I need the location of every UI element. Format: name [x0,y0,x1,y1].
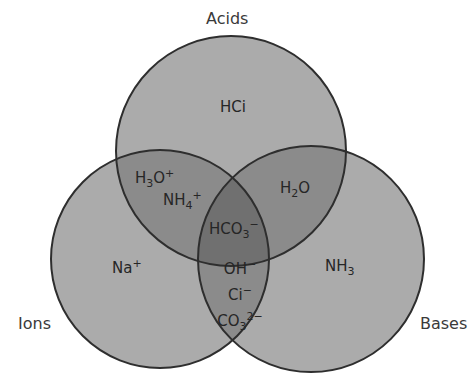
set-label-ions: Ions [18,314,51,333]
region-acids-bases-h2o: H2O [280,181,310,199]
region-ions-bases: OH− Ci− CO32− [208,254,272,338]
oh-ion: OH− [208,254,272,280]
region-all-hco3: HCO3− [209,219,259,240]
set-label-bases: Bases [420,314,467,333]
oh-charge: − [247,258,256,271]
hco3-charge: − [250,218,259,231]
h3o-h: H [135,169,146,187]
nh4-subscript: 4 [186,199,193,212]
co3-ion: CO32− [208,306,272,338]
ci-symbol: Ci [228,286,243,304]
region-acids-ions-h3o: H3O+ [135,168,174,189]
region-ions-only-na: Na+ [112,258,142,276]
h3o-charge: + [165,167,174,180]
co3-symbol: CO [217,312,239,330]
na-charge: + [132,257,141,270]
region-acids-ions-nh4: NH4+ [163,190,202,211]
nh3-subscript: 3 [348,265,355,278]
nh3-symbol: NH [325,257,348,275]
set-label-acids: Acids [206,9,248,28]
co3-subscript: 3 [240,320,247,333]
region-bases-only-nh3: NH3 [325,259,355,277]
hco3-subscript: 3 [243,228,250,241]
ci-ion: Ci− [208,280,272,306]
h2o-o: O [298,179,310,197]
h2o-h: H [280,179,291,197]
h3o-o: O [153,169,165,187]
oh-symbol: OH [224,260,247,278]
hco3-symbol: HCO [209,220,243,238]
co3-charge: 2− [247,310,263,323]
ci-charge: − [243,284,252,297]
nh4-charge: + [193,189,202,202]
region-acids-only-hci: HCi [220,100,246,115]
nh4-symbol: NH [163,191,186,209]
na-symbol: Na [112,259,132,277]
